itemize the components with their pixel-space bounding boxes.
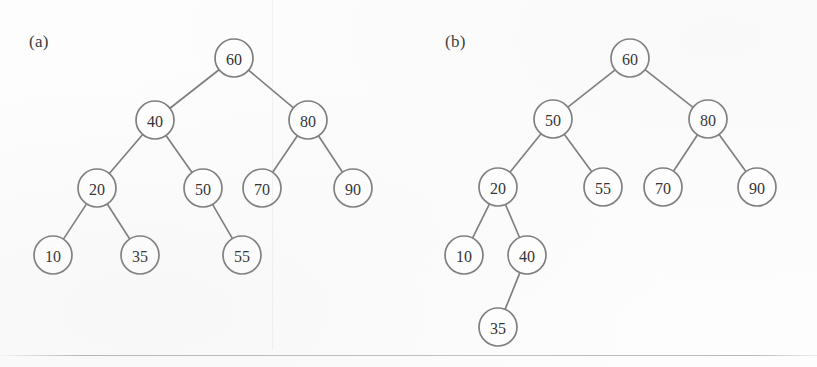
tree-node: 55 (584, 168, 622, 206)
tree-node: 80 (289, 101, 327, 139)
tree-edge (564, 134, 591, 171)
tree-edge (213, 204, 233, 238)
tree-node-value: 90 (749, 180, 765, 197)
tree-edge (273, 136, 298, 173)
tree-node-value: 10 (456, 248, 472, 265)
tree-node: 60 (215, 39, 253, 77)
scan-artifact-horizontal-rule (0, 355, 817, 356)
tree-node-value: 20 (89, 181, 105, 198)
tree-node-value: 50 (195, 181, 211, 198)
tree-edge (473, 204, 490, 238)
tree-edge (510, 134, 541, 172)
tree-node: 40 (136, 101, 174, 139)
tree-edge (568, 70, 615, 107)
tree-node-value: 40 (519, 248, 535, 265)
tree-edge (318, 136, 342, 172)
tree-node-value: 80 (300, 113, 316, 130)
tree-edge (645, 70, 693, 108)
tree-node: 10 (445, 236, 483, 274)
tree-edge (109, 134, 142, 173)
tree-node-value: 60 (226, 51, 242, 68)
tree-node-value: 40 (147, 113, 163, 130)
tree-node-value: 80 (700, 112, 716, 129)
tree-edge (505, 273, 520, 310)
panel-label-b: (b) (445, 32, 466, 52)
tree-edge (719, 134, 746, 171)
tree-node-value: 70 (254, 181, 270, 198)
tree-edge (505, 204, 519, 237)
tree-node-value: 90 (345, 181, 361, 198)
tree-node: 90 (738, 168, 776, 206)
tree-edge (107, 204, 129, 239)
tree-edge (673, 135, 697, 171)
tree-edge (170, 70, 219, 109)
tree-node: 10 (34, 236, 72, 274)
tree-edge (166, 136, 192, 173)
tree-node: 50 (534, 100, 572, 138)
tree-node: 35 (121, 236, 159, 274)
tree-node: 70 (644, 168, 682, 206)
tree-node-value: 20 (490, 180, 506, 197)
tree-node: 40 (508, 236, 546, 274)
tree-node: 60 (611, 39, 649, 77)
tree-node-value: 35 (132, 248, 148, 265)
tree-node: 20 (78, 169, 116, 207)
tree-node: 90 (334, 169, 372, 207)
tree-node: 80 (689, 100, 727, 138)
tree-node-value: 55 (234, 248, 250, 265)
tree-edge (63, 204, 86, 239)
tree-node-value: 10 (45, 248, 61, 265)
tree-node: 55 (223, 236, 261, 274)
tree-node: 20 (479, 168, 517, 206)
tree-node: 50 (184, 169, 222, 207)
tree-node: 35 (479, 308, 517, 346)
tree-node-value: 70 (655, 180, 671, 197)
scan-artifact-vertical-line (272, 0, 273, 350)
tree-node-value: 55 (595, 180, 611, 197)
tree-drawing-layer: 6040802050709010355560508020557090104035 (0, 0, 817, 367)
tree-node-value: 60 (622, 51, 638, 68)
tree-node-value: 50 (545, 112, 561, 129)
tree-node-value: 35 (490, 320, 506, 337)
tree-node: 70 (243, 169, 281, 207)
binary-search-tree-figure: 6040802050709010355560508020557090104035… (0, 0, 817, 367)
panel-label-a: (a) (29, 32, 49, 52)
tree-edge (249, 70, 294, 108)
